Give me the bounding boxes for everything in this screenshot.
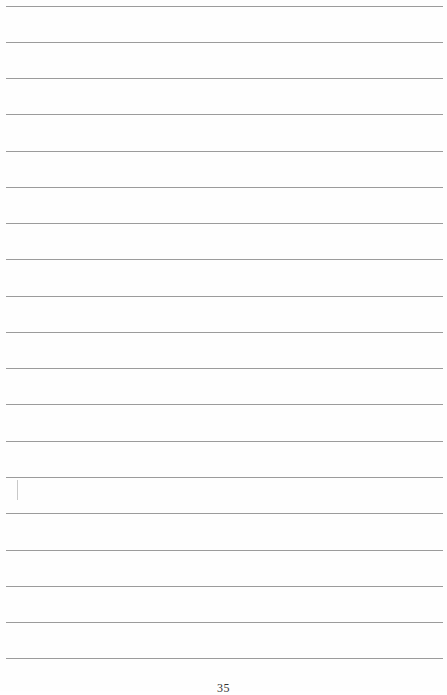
scan-artifact-mark (17, 480, 18, 500)
ruled-line (6, 114, 443, 115)
ruled-line (6, 550, 443, 551)
page-number: 35 (0, 682, 447, 694)
ruled-line (6, 6, 443, 7)
ruled-line (6, 404, 443, 405)
ruled-line (6, 296, 443, 297)
ruled-line (6, 586, 443, 587)
ruled-line (6, 441, 443, 442)
ruled-line (6, 187, 443, 188)
ruled-line (6, 658, 443, 659)
ruled-line (6, 332, 443, 333)
ruled-line (6, 259, 443, 260)
ruled-line (6, 78, 443, 79)
ruled-line (6, 622, 443, 623)
ruled-line (6, 513, 443, 514)
ruled-line (6, 223, 443, 224)
ruled-line (6, 368, 443, 369)
ruled-line (6, 151, 443, 152)
ruled-line (6, 42, 443, 43)
ruled-line (6, 477, 443, 478)
